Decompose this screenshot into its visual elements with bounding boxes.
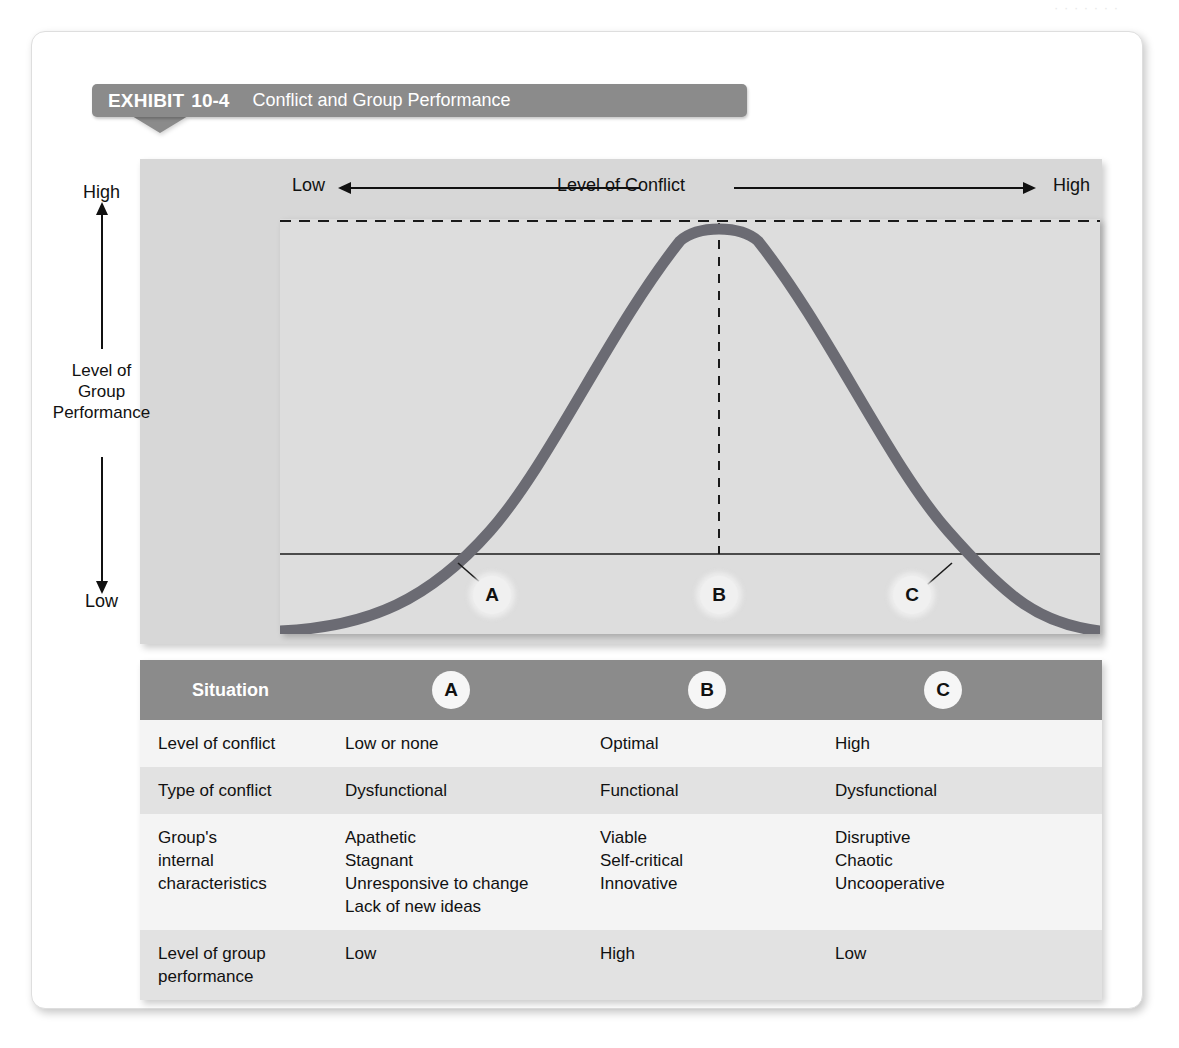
exhibit-card: EXHIBIT 10-4 Conflict and Group Performa… [31, 31, 1143, 1009]
chart-plot-area: A B C [280, 219, 1100, 634]
y-axis-title: Level of Group Performance [34, 360, 169, 423]
table-header-circle-b: B [688, 671, 726, 709]
chart-marker-a: A [473, 576, 511, 614]
table-cell-b: High [600, 942, 835, 988]
table-row: Level of groupperformance Low High Low [140, 930, 1102, 1000]
table-header-circle-a-label: A [444, 679, 458, 701]
y-axis-down-arrow-icon [101, 457, 103, 582]
table-cell-b: ViableSelf-criticalInnovative [600, 826, 835, 918]
table-header-situation: Situation [192, 680, 269, 701]
exhibit-band-notch [132, 116, 188, 133]
table-header-circle-b-label: B [700, 679, 714, 701]
table-cell-c: Dysfunctional [835, 779, 1085, 802]
table-row: Level of conflict Low or none Optimal Hi… [140, 720, 1102, 767]
page-ghost-header: · · · · · · · [0, 0, 1179, 22]
table-cell-c: High [835, 732, 1085, 755]
exhibit-header-band: EXHIBIT 10-4 Conflict and Group Performa… [92, 84, 747, 117]
table-cell-b: Optimal [600, 732, 835, 755]
table-cell-label: Level of conflict [140, 732, 345, 755]
table-header-row: Situation A B C [140, 660, 1102, 720]
exhibit-label: EXHIBIT [108, 90, 184, 112]
table-header-circle-c: C [924, 671, 962, 709]
table-header-circle-c-label: C [936, 679, 950, 701]
situation-table: Situation A B C Level of conflict Low or… [140, 660, 1102, 1000]
table-cell-label: Level of groupperformance [140, 942, 345, 988]
y-axis-title-line2: Group [34, 381, 169, 402]
table-cell-c: DisruptiveChaoticUncooperative [835, 826, 1085, 918]
y-axis-title-line1: Level of [34, 360, 169, 381]
table-cell-a: Low or none [345, 732, 600, 755]
x-axis-high-label: High [1053, 175, 1090, 196]
y-axis-title-line3: Performance [34, 402, 169, 423]
chart-panel: Low Level of Conflict High [140, 159, 1102, 644]
table-cell-a: ApatheticStagnantUnresponsive to changeL… [345, 826, 600, 918]
table-row: Group'sinternalcharacteristics Apathetic… [140, 814, 1102, 930]
table-row: Type of conflict Dysfunctional Functiona… [140, 767, 1102, 814]
table-cell-a: Dysfunctional [345, 779, 600, 802]
chart-marker-c: C [893, 576, 931, 614]
exhibit-number: 10-4 [191, 90, 229, 112]
y-axis: High Level of Group Performance Low [34, 182, 169, 612]
x-axis-title: Level of Conflict [140, 175, 1102, 196]
table-header-circle-a: A [432, 671, 470, 709]
bell-curve-svg [280, 219, 1100, 634]
chart-marker-b-label: B [712, 584, 726, 606]
chart-marker-c-label: C [905, 584, 919, 606]
chart-marker-b: B [700, 576, 738, 614]
y-axis-low-label: Low [34, 591, 169, 612]
table-cell-a: Low [345, 942, 600, 988]
table-cell-label: Type of conflict [140, 779, 345, 802]
y-axis-up-arrow-icon [101, 214, 103, 349]
exhibit-title: Conflict and Group Performance [252, 90, 510, 111]
table-cell-label: Group'sinternalcharacteristics [140, 826, 345, 918]
y-axis-high-label: High [34, 182, 169, 203]
performance-curve [280, 229, 1100, 631]
chart-marker-a-label: A [485, 584, 499, 606]
table-cell-c: Low [835, 942, 1085, 988]
x-axis-header: Low Level of Conflict High [140, 167, 1102, 207]
x-axis-right-arrow-icon [734, 187, 1024, 189]
table-cell-b: Functional [600, 779, 835, 802]
